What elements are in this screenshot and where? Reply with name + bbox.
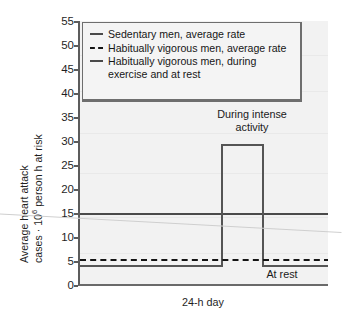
series-line-vigorous-activity-right [262,265,328,267]
y-tick-label-50: 50 [34,39,74,51]
series-line-vigorous-average [80,259,328,261]
series-line-vigorous-activity-left [80,265,221,267]
series-spike-intense-activity [221,144,264,267]
y-tick-label-40: 40 [34,87,74,99]
annotation-at-rest: At rest [252,268,312,281]
y-tick-label-35: 35 [34,111,74,123]
legend-item-vigorous-activity: Habitually vigorous men, during exercise… [90,55,294,80]
y-tick-label-5: 5 [34,255,74,267]
y-tick-label-45: 45 [34,63,74,75]
legend-swatch-solid-icon [90,60,103,62]
chart-legend: Sedentary men, average rate Habitually v… [82,22,302,102]
y-axis-title-line2: cases · 106 person h at risk [30,134,44,263]
series-line-sedentary [80,213,328,215]
scan-band [80,217,328,218]
y-tick-label-10: 10 [34,231,74,243]
y-tick-label-20: 20 [34,183,74,195]
legend-item-sedentary: Sedentary men, average rate [90,28,294,41]
legend-item-vigorous-average: Habitually vigorous men, average rate [90,42,294,55]
y-tick-label-55: 55 [34,15,74,27]
y-tick-label-15: 15 [34,207,74,219]
scan-band [80,173,328,174]
scan-band [80,253,328,254]
legend-swatch-solid-icon [90,33,103,35]
y-axis-title-line1: Average heart attack [18,165,30,263]
y-tick-label-0: 0 [34,279,74,291]
y-tick-label-25: 25 [34,159,74,171]
legend-label-vigorous-activity: Habitually vigorous men, during exercise… [108,55,256,80]
legend-swatch-dashed-icon [90,47,103,49]
y-tick-label-30: 30 [34,135,74,147]
x-axis-title: 24-h day [78,296,328,308]
legend-label-sedentary: Sedentary men, average rate [108,28,245,41]
legend-label-vigorous-average: Habitually vigorous men, average rate [108,42,286,55]
scan-band [80,133,328,134]
annotation-during-intense-activity: During intense activity [204,108,300,133]
